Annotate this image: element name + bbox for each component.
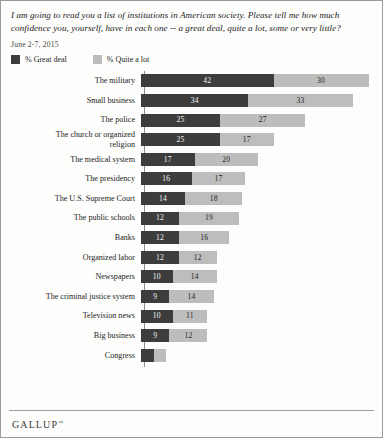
bar-segment-great-deal: 42 bbox=[141, 74, 274, 87]
bar-row: The presidency1617 bbox=[9, 169, 374, 189]
chart-legend: % Great deal % Quite a lot bbox=[11, 55, 374, 64]
bar-row: The church or organized religion2517 bbox=[9, 130, 374, 150]
bar-row-label: The medical system bbox=[9, 155, 140, 164]
bar-value-great-deal: 12 bbox=[156, 214, 164, 222]
bar-row-label: The church or organized religion bbox=[9, 130, 140, 149]
bar-value-quite-a-lot: 16 bbox=[200, 234, 208, 242]
bar-row-label: Television news bbox=[9, 311, 140, 320]
bar-segment-quite-a-lot: 14 bbox=[169, 290, 213, 303]
trademark-icon: ™ bbox=[58, 420, 64, 425]
bar-value-great-deal: 34 bbox=[191, 97, 199, 105]
gallup-logo: GALLUP™ bbox=[12, 419, 64, 430]
bar-row: Banks1216 bbox=[9, 228, 374, 248]
bar-segment-great-deal: 17 bbox=[141, 153, 195, 166]
bar-segment-quite-a-lot: 16 bbox=[179, 231, 230, 244]
bar-value-great-deal: 25 bbox=[177, 136, 185, 144]
bar-row: Television news1011 bbox=[9, 306, 374, 326]
bar-track: 4230 bbox=[141, 74, 369, 87]
bar-segment-quite-a-lot: 11 bbox=[173, 310, 208, 323]
bar-track: 1418 bbox=[141, 192, 242, 205]
bar-value-great-deal: 9 bbox=[153, 293, 157, 301]
bar-value-great-deal: 12 bbox=[156, 254, 164, 262]
bar-row: The police2527 bbox=[9, 110, 374, 130]
bar-row: Small business3433 bbox=[9, 91, 374, 111]
bar-value-great-deal: 10 bbox=[153, 273, 161, 281]
bar-track: 2517 bbox=[141, 133, 274, 146]
bar-row-label: Banks bbox=[9, 233, 140, 242]
bar-track: 1212 bbox=[141, 251, 217, 264]
bar-segment-great-deal: 16 bbox=[141, 172, 192, 185]
bar-value-great-deal: 14 bbox=[159, 195, 167, 203]
bar-track bbox=[141, 349, 166, 362]
bar-row-label: Newspapers bbox=[9, 272, 140, 281]
bar-track: 1219 bbox=[141, 212, 239, 225]
bar-row: Newspapers1014 bbox=[9, 267, 374, 287]
bar-value-quite-a-lot: 14 bbox=[191, 273, 199, 281]
gallup-confidence-chart-card: I am going to read you a list of institu… bbox=[0, 0, 383, 438]
bar-value-great-deal: 17 bbox=[164, 156, 172, 164]
bar-row: The military4230 bbox=[9, 71, 374, 91]
bar-rows-container: The military4230Small business3433The po… bbox=[9, 71, 374, 365]
bar-segment-great-deal: 12 bbox=[141, 212, 179, 225]
bar-segment-quite-a-lot bbox=[154, 349, 167, 362]
bar-value-great-deal: 10 bbox=[153, 312, 161, 320]
bar-row-label: The public schools bbox=[9, 213, 140, 222]
footer-divider bbox=[9, 410, 374, 411]
bar-segment-quite-a-lot: 19 bbox=[179, 212, 239, 225]
bar-row: Big business912 bbox=[9, 326, 374, 346]
bar-row-label: The criminal justice system bbox=[9, 292, 140, 301]
bar-segment-quite-a-lot: 17 bbox=[192, 172, 246, 185]
bar-value-quite-a-lot: 17 bbox=[214, 175, 222, 183]
bar-value-quite-a-lot: 11 bbox=[186, 312, 194, 320]
bar-segment-great-deal: 10 bbox=[141, 310, 173, 323]
bar-value-quite-a-lot: 33 bbox=[297, 97, 305, 105]
legend-item-quite-a-lot: % Quite a lot bbox=[93, 55, 149, 64]
survey-date: June 2-7, 2015 bbox=[11, 39, 374, 50]
bar-row-label: The U.S. Supreme Court bbox=[9, 194, 140, 203]
bar-segment-great-deal: 25 bbox=[141, 114, 220, 127]
bar-segment-quite-a-lot: 12 bbox=[179, 251, 217, 264]
bar-value-great-deal: 25 bbox=[177, 116, 185, 124]
bar-track: 1216 bbox=[141, 231, 229, 244]
bar-segment-great-deal: 9 bbox=[141, 290, 169, 303]
bar-value-quite-a-lot: 18 bbox=[210, 195, 218, 203]
bar-track: 1011 bbox=[141, 310, 207, 323]
bar-value-quite-a-lot: 14 bbox=[188, 293, 196, 301]
bar-track: 3433 bbox=[141, 94, 353, 107]
bar-track: 914 bbox=[141, 290, 214, 303]
bar-row: The medical system1720 bbox=[9, 150, 374, 170]
bar-segment-great-deal: 12 bbox=[141, 231, 179, 244]
bar-track: 1617 bbox=[141, 172, 245, 185]
bar-row-label: Congress bbox=[9, 351, 140, 360]
bar-segment-quite-a-lot: 27 bbox=[220, 114, 305, 127]
bar-value-quite-a-lot: 19 bbox=[205, 214, 213, 222]
bar-segment-quite-a-lot: 30 bbox=[274, 74, 369, 87]
bar-value-quite-a-lot: 20 bbox=[222, 156, 230, 164]
bar-value-great-deal: 9 bbox=[153, 332, 157, 340]
legend-label-quite-a-lot: % Quite a lot bbox=[107, 55, 149, 64]
legend-item-great-deal: % Great deal bbox=[11, 55, 67, 64]
question-text: I am going to read you a list of institu… bbox=[11, 9, 370, 35]
bar-segment-great-deal: 25 bbox=[141, 133, 220, 146]
bar-segment-great-deal: 14 bbox=[141, 192, 185, 205]
bar-segment-great-deal: 12 bbox=[141, 251, 179, 264]
bar-value-great-deal: 12 bbox=[156, 234, 164, 242]
bar-value-quite-a-lot: 12 bbox=[184, 332, 192, 340]
bar-segment-quite-a-lot: 14 bbox=[173, 270, 217, 283]
bar-row: The U.S. Supreme Court1418 bbox=[9, 189, 374, 209]
bar-segment-quite-a-lot: 12 bbox=[169, 329, 207, 342]
bar-row-label: The police bbox=[9, 115, 140, 124]
bar-row: The criminal justice system914 bbox=[9, 287, 374, 307]
chart-plot-area: The military4230Small business3433The po… bbox=[9, 71, 374, 367]
bar-segment-great-deal: 9 bbox=[141, 329, 169, 342]
legend-label-great-deal: % Great deal bbox=[25, 55, 67, 64]
bar-value-great-deal: 42 bbox=[203, 77, 211, 85]
bar-value-great-deal: 16 bbox=[162, 175, 170, 183]
bar-value-quite-a-lot: 30 bbox=[317, 77, 325, 85]
bar-row-label: Big business bbox=[9, 331, 140, 340]
bar-segment-great-deal: 34 bbox=[141, 94, 248, 107]
bar-segment-quite-a-lot: 33 bbox=[248, 94, 352, 107]
bar-row: Organized labor1212 bbox=[9, 248, 374, 268]
legend-swatch-quite-a-lot-icon bbox=[93, 55, 102, 64]
bar-track: 1720 bbox=[141, 153, 258, 166]
